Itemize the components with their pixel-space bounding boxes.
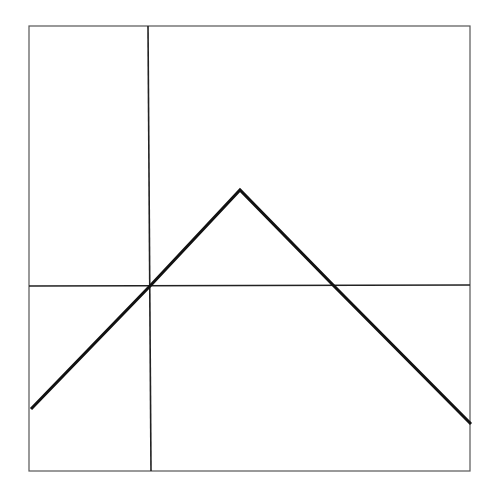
plot-frame bbox=[29, 26, 470, 471]
x-axis bbox=[29, 285, 470, 286]
function-plot bbox=[0, 0, 496, 491]
function-graph-line bbox=[31, 190, 471, 424]
y-axis bbox=[148, 26, 151, 471]
